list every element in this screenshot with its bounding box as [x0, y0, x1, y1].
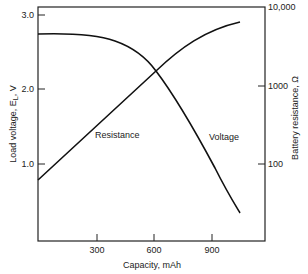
voltage-curve — [38, 34, 240, 213]
chart: 3.0 2.0 1.0 300 600 900 Capacity, mAh 10… — [0, 0, 308, 274]
x-tick-label-300: 300 — [89, 245, 104, 255]
y-tick-label-1: 1.0 — [21, 159, 34, 169]
right-tick-label-10000: 10,000 — [268, 2, 296, 12]
right-tick-label-1000: 1000 — [268, 81, 288, 91]
resistance-curve — [38, 22, 240, 180]
y-axis-label-left: Load voltage, EL, V — [8, 85, 19, 162]
y-axis-label-right: Battery resistance, Ω — [290, 76, 300, 160]
y-tick-label-2: 2.0 — [21, 84, 34, 94]
x-tick-label-900: 900 — [204, 245, 219, 255]
voltage-label: Voltage — [209, 132, 239, 142]
plot-frame — [38, 7, 265, 241]
x-axis-label: Capacity, mAh — [123, 260, 181, 270]
right-tick-label-100: 100 — [268, 159, 283, 169]
x-tick-label-600: 600 — [146, 245, 161, 255]
resistance-label: Resistance — [95, 130, 140, 140]
y-tick-label-3: 3.0 — [21, 10, 34, 20]
